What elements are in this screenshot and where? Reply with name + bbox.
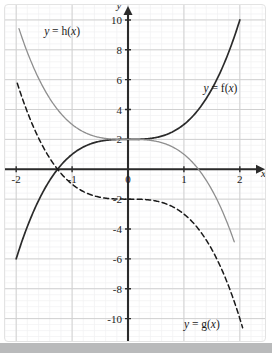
y-tick-label: 6 xyxy=(117,74,123,86)
x-axis-name: x xyxy=(260,167,265,179)
axis-names: yx xyxy=(115,5,265,179)
curve-label-f: y = f(x) xyxy=(202,82,237,95)
curve-g xyxy=(17,83,242,328)
minor-gridlines xyxy=(5,5,265,341)
bottom-band xyxy=(0,343,272,353)
x-tick-label: -2 xyxy=(12,173,21,185)
curve-label-g: y = g(x) xyxy=(183,318,220,331)
x-tick-label: 2 xyxy=(237,173,243,185)
axes xyxy=(5,6,265,341)
curve-label-h: y = h(x) xyxy=(43,25,80,38)
x-tick-label: -1 xyxy=(68,173,77,185)
y-tick-label: 4 xyxy=(117,104,123,116)
y-tick-label: -8 xyxy=(113,283,123,295)
x-tick-label: 0 xyxy=(125,173,131,185)
x-tick-label: 1 xyxy=(181,173,187,185)
y-axis-name: y xyxy=(115,5,121,11)
coordinate-plane: -2-1012-10-8-6-4-2246810 y = f(x)y = h(x… xyxy=(5,5,265,341)
y-tick-label: -10 xyxy=(107,313,122,325)
major-gridlines xyxy=(5,5,265,341)
curve-h xyxy=(19,29,234,242)
y-tick-label: -4 xyxy=(113,223,123,235)
figure-canvas: -2-1012-10-8-6-4-2246810 y = f(x)y = h(x… xyxy=(0,0,272,353)
plot-frame: -2-1012-10-8-6-4-2246810 y = f(x)y = h(x… xyxy=(4,4,266,342)
y-tick-label: 8 xyxy=(117,44,123,56)
y-tick-label: 10 xyxy=(111,14,123,26)
y-tick-label: -6 xyxy=(113,253,123,265)
